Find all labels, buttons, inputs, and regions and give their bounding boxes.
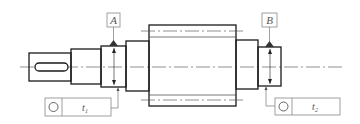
tolerance-subscript-2: 2 (315, 107, 318, 113)
keyway-slot (35, 63, 68, 71)
shaft-step-4 (126, 41, 149, 91)
datum-triangle-a (109, 40, 118, 46)
shaft-step-2 (71, 49, 101, 84)
datum-triangle-b (265, 41, 274, 47)
datum-b-marker: B (262, 13, 277, 84)
tolerance-frame-1: t1 (45, 98, 111, 116)
leader-line-2 (266, 88, 275, 106)
shaft-step-right (236, 40, 258, 89)
shaft-drawing: A B t1 t2 (0, 0, 360, 124)
tolerance-subscript-1: 1 (85, 108, 88, 114)
datum-a-label: A (109, 14, 117, 26)
tolerance-frame-2: t2 (275, 98, 340, 115)
datum-a-marker: A (107, 13, 120, 85)
leader-line-1 (111, 89, 118, 108)
datum-b-label: B (266, 14, 273, 26)
